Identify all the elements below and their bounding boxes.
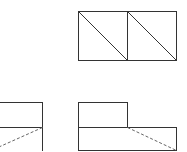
projection-drawing: [0, 0, 187, 151]
side-view: [0, 103, 43, 152]
side-view-hidden-line: [0, 128, 43, 147]
top-view-diagonal-right: [128, 12, 177, 61]
side-view-lower-block: [0, 128, 43, 152]
top-view: [79, 12, 177, 61]
front-view-hidden-line: [128, 128, 177, 151]
top-view-diagonal-left: [79, 12, 128, 61]
front-view: [79, 103, 177, 151]
front-view-upper-block: [79, 103, 128, 128]
side-view-upper-block: [0, 103, 43, 128]
front-view-lower-block: [79, 128, 177, 151]
